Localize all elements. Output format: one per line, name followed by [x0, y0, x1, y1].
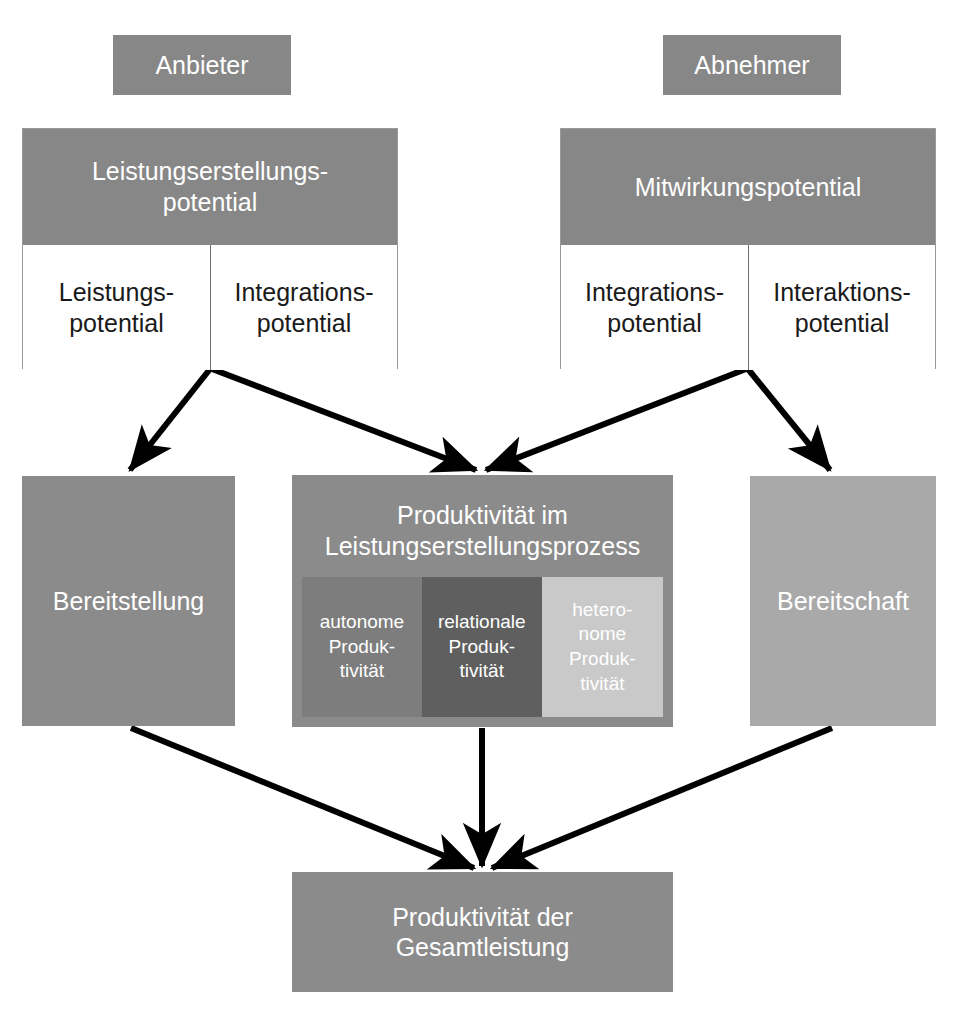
cell-integrationspotential-provider[interactable]: Integrations- potential [210, 245, 397, 370]
actor-chip-provider[interactable]: Anbieter [113, 35, 291, 95]
arrow-bereitschaft-to-result [492, 728, 832, 868]
group-cells-provider: Leistungs- potential Integrations- poten… [23, 245, 397, 370]
diagram-canvas: Anbieter Abnehmer Leistungserstellungs- … [0, 0, 958, 1016]
group-header-mitwirkungspotential: Mitwirkungspotential [561, 129, 935, 245]
cell-interaktionspotential[interactable]: Interaktions- potential [748, 245, 935, 370]
block-bereitstellung[interactable]: Bereitstellung [22, 476, 235, 726]
group-cells-customer: Integrations- potential Interaktions- po… [561, 245, 935, 370]
arrow-provider-to-prozess [212, 369, 476, 470]
arrow-provider-to-bereitstellung [130, 369, 210, 470]
actor-chip-customer-label: Abnehmer [694, 50, 809, 81]
arrow-customer-to-prozess [486, 369, 746, 470]
sub-relationale-produktivitaet[interactable]: relationale Produk- tivität [422, 577, 542, 717]
block-produktivitaet-prozess[interactable]: Produktivität im Leistungserstellungspro… [292, 475, 673, 727]
block-produktivitaet-gesamtleistung[interactable]: Produktivität der Gesamtleistung [292, 872, 673, 992]
sub-autonome-produktivitaet[interactable]: autonome Produk- tivität [302, 577, 422, 717]
actor-chip-customer[interactable]: Abnehmer [663, 35, 841, 95]
group-mitwirkungspotential[interactable]: Mitwirkungspotential Integrations- poten… [560, 128, 936, 369]
sub-heteronome-produktivitaet[interactable]: hetero- nome Produk- tivität [542, 577, 663, 717]
actor-chip-provider-label: Anbieter [155, 50, 248, 81]
arrow-customer-to-bereitschaft [748, 369, 830, 470]
block-produktivitaet-prozess-title: Produktivität im Leistungserstellungspro… [292, 483, 673, 579]
group-leistungserstellungspotential[interactable]: Leistungserstellungs- potential Leistung… [22, 128, 398, 369]
block-bereitstellung-label: Bereitstellung [53, 586, 204, 617]
cell-integrationspotential-customer[interactable]: Integrations- potential [561, 245, 748, 370]
produktivitaet-subtypes: autonome Produk- tivität relationale Pro… [302, 577, 663, 717]
block-produktivitaet-gesamtleistung-label: Produktivität der Gesamtleistung [392, 902, 573, 963]
arrow-bereitstellung-to-result [131, 728, 474, 868]
group-header-leistungserstellungspotential: Leistungserstellungs- potential [23, 129, 397, 245]
block-bereitschaft[interactable]: Bereitschaft [750, 476, 936, 726]
block-bereitschaft-label: Bereitschaft [777, 586, 909, 617]
cell-leistungspotential[interactable]: Leistungs- potential [23, 245, 210, 370]
